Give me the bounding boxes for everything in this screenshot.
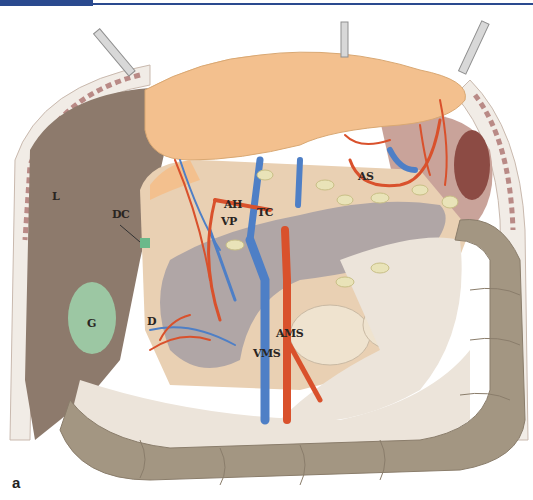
- label-vms: VMS: [253, 347, 280, 360]
- label-gallbladder: G: [87, 317, 96, 330]
- panel-label: a: [12, 474, 20, 491]
- spleen: [454, 130, 490, 200]
- label-tc: TC: [257, 206, 273, 219]
- superior-mesenteric-artery: [285, 230, 287, 420]
- label-ah: AH: [224, 198, 242, 211]
- label-vp: VP: [221, 215, 237, 228]
- label-liver: L: [52, 190, 59, 203]
- label-ams: AMS: [276, 327, 303, 340]
- retractor-left: [94, 29, 135, 76]
- label-duodenum: D: [147, 315, 156, 328]
- label-as: AS: [358, 170, 373, 183]
- anatomical-illustration: [0, 0, 533, 500]
- label-dc: DC: [112, 208, 129, 221]
- retractor-right: [459, 21, 489, 74]
- retractor-middle: [341, 22, 348, 57]
